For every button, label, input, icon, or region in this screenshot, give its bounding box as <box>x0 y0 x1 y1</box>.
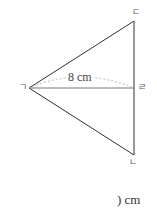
answer-unit-text: ) cm <box>117 192 140 208</box>
vertex-label-giyeok: ㄱ <box>19 83 27 92</box>
vertex-label-nieun: ㄴ <box>129 158 137 167</box>
length-label: 8 cm <box>67 71 93 83</box>
side-ga-na <box>29 88 134 155</box>
vertex-label-digeut: ㄷ <box>132 8 140 17</box>
vertex-label-rieul: ㄹ <box>138 83 146 92</box>
triangle-figure <box>0 0 157 215</box>
